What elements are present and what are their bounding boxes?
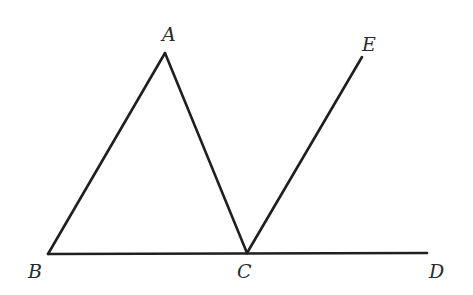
point-label-d: D xyxy=(428,260,444,282)
segment-bd xyxy=(48,253,427,254)
point-label-b: B xyxy=(27,260,42,282)
point-label-a: A xyxy=(160,23,176,45)
point-label-e: E xyxy=(361,33,376,55)
point-label-c: C xyxy=(237,260,252,282)
segment-ab xyxy=(48,53,165,254)
segment-ce xyxy=(247,57,362,253)
geometry-diagram: A B C D E xyxy=(0,0,473,295)
segment-ac xyxy=(165,53,247,253)
